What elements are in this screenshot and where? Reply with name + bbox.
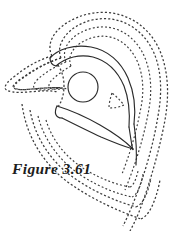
- center-circle: [68, 72, 98, 102]
- inner-solid-arc-lower: [56, 56, 129, 127]
- dashed-contour-4: [70, 36, 143, 174]
- small-dashed-triangle: [109, 93, 124, 108]
- inner-solid-arc-joint: [50, 58, 56, 66]
- tail-dashed-inner: [130, 171, 138, 187]
- lens-solid-lower: [62, 118, 133, 149]
- left-cusp-dashed-inner: [14, 58, 63, 90]
- tail-dashed-mid: [132, 174, 143, 197]
- inner-solid-arc-upper: [50, 46, 135, 124]
- left-notch-dashed: [34, 62, 68, 90]
- contour-diagram: [0, 0, 187, 231]
- figure-container: Figure 3.61: [0, 0, 187, 231]
- bottom-dashed-sweep-2: [38, 116, 132, 197]
- left-cusp-dashed: [13, 58, 62, 90]
- tail-dashed-outer: [136, 178, 151, 207]
- lens-solid-upper: [57, 106, 133, 149]
- figure-caption: Figure 3.61: [12, 160, 91, 178]
